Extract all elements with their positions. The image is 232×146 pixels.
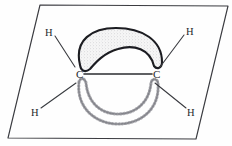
orbital-diagram-figure: C C H H H H xyxy=(0,0,232,146)
atom-label-h-bottom-right: H xyxy=(187,108,195,119)
bond-h-bottom-left xyxy=(41,83,76,108)
atom-label-c-right: C xyxy=(153,69,161,80)
diagram-canvas xyxy=(0,0,232,146)
atom-label-h-bottom-left: H xyxy=(31,108,39,119)
molecular-plane-parallelogram xyxy=(8,5,228,139)
atom-label-h-top-right: H xyxy=(186,27,194,38)
atom-label-h-top-left: H xyxy=(45,28,53,39)
bond-h-top-right xyxy=(160,35,184,67)
bond-h-top-left xyxy=(55,36,75,67)
atom-label-c-left: C xyxy=(76,69,84,80)
bond-h-bottom-right xyxy=(155,83,186,108)
pi-lobe-lower-path-inner xyxy=(79,79,158,124)
